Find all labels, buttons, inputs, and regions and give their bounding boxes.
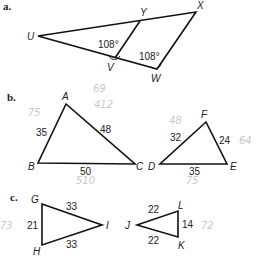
vertex-a: A — [61, 91, 69, 102]
side-hi: 33 — [66, 239, 78, 250]
side-jk: 22 — [148, 235, 160, 246]
vertex-f: F — [201, 109, 208, 120]
vertex-k: K — [178, 240, 186, 251]
side-lk: 14 — [182, 219, 194, 230]
segment-yv — [115, 21, 140, 58]
handwritten-note: 48 — [169, 115, 182, 126]
angle-w-label: 108° — [139, 51, 160, 62]
vertex-j: J — [124, 220, 131, 231]
vertex-l: L — [178, 200, 184, 211]
part-c-label: c. — [10, 191, 18, 203]
side-gi: 33 — [66, 201, 78, 212]
triangle-abc — [38, 104, 135, 164]
angle-v-label: 108° — [98, 39, 119, 50]
part-b-label: b. — [7, 91, 16, 103]
vertex-i: I — [106, 220, 109, 231]
side-ac: 48 — [100, 124, 112, 135]
vertex-h: H — [33, 246, 41, 256]
triangle-def — [160, 122, 227, 164]
vertex-w: W — [151, 73, 162, 84]
handwritten-note: 73 — [0, 220, 13, 231]
handwritten-note: 412 — [94, 99, 113, 110]
handwritten-note: 72 — [201, 220, 214, 231]
vertex-x: X — [196, 0, 204, 11]
handwritten-note: 510 — [76, 175, 95, 186]
side-df: 32 — [170, 132, 182, 143]
figure-canvas: a. U Y X V W 108° 108° b. A B C 35 48 50… — [0, 0, 256, 256]
side-fe: 24 — [219, 135, 231, 146]
vertex-u: U — [27, 31, 35, 42]
handwritten-note: 64 — [239, 135, 252, 146]
vertex-v: V — [107, 62, 115, 73]
handwritten-note: 75 — [28, 107, 41, 118]
side-jl: 22 — [148, 204, 160, 215]
vertex-d: D — [148, 161, 155, 172]
side-gh: 21 — [27, 220, 39, 231]
vertex-g: G — [31, 194, 39, 205]
vertex-c: C — [136, 161, 144, 172]
handwritten-note: 75 — [186, 175, 199, 186]
part-a-label: a. — [3, 0, 12, 12]
vertex-y: Y — [140, 7, 148, 18]
side-ab: 35 — [36, 127, 48, 138]
vertex-b: B — [28, 161, 35, 172]
vertex-e: E — [230, 161, 237, 172]
handwritten-note: 69 — [93, 83, 106, 94]
